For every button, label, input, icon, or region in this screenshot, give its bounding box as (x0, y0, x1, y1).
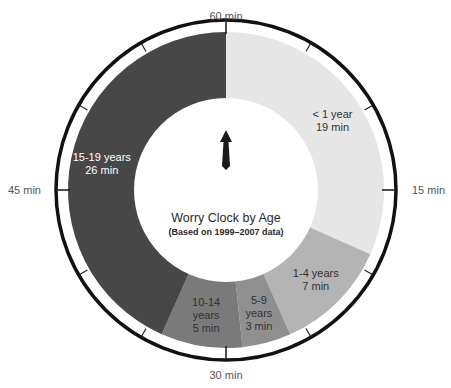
clock-tick (365, 105, 374, 110)
worry-clock-chart: 60 min15 min30 min45 min < 1 year19 min1… (0, 0, 451, 388)
clock-tick (306, 329, 311, 338)
inner-clock-face (134, 98, 318, 282)
tick-label-0: 60 min (209, 10, 242, 22)
clock-tick (79, 270, 88, 275)
tick-label-15: 15 min (412, 184, 445, 196)
clock-tick (79, 105, 88, 110)
chart-subtitle: (Based on 1999–2007 data) (168, 227, 283, 237)
clock-tick (365, 270, 374, 275)
segment-label: 10-14years5 min (192, 296, 220, 334)
chart-title: Worry Clock by Age (171, 211, 281, 225)
tick-label-45: 45 min (8, 184, 41, 196)
tick-label-30: 30 min (209, 369, 242, 381)
clock-tick (141, 329, 146, 338)
segment-label: < 1 year19 min (312, 108, 352, 133)
clock-tick (141, 43, 146, 52)
clock-tick (306, 43, 311, 52)
